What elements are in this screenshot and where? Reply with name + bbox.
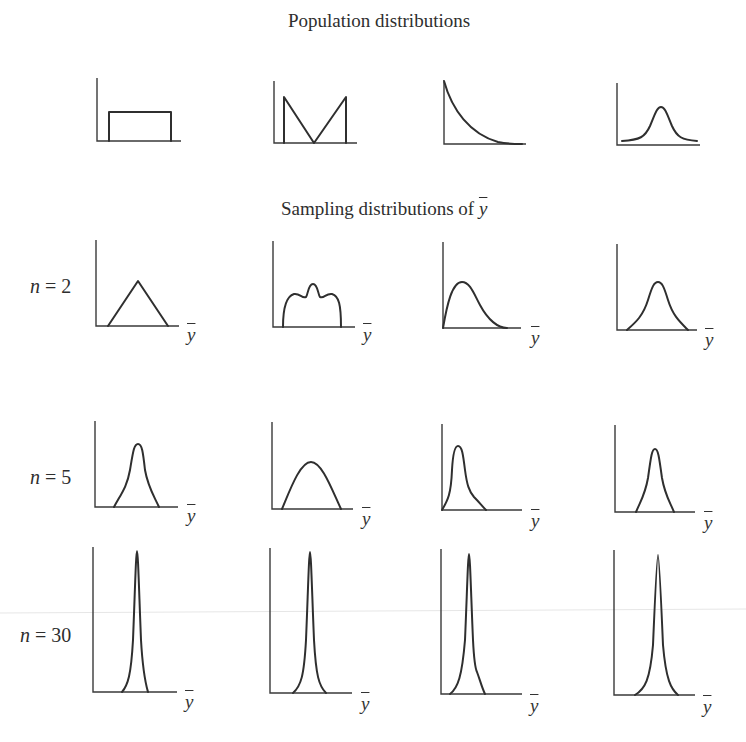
plot-n5-uniform [95,421,178,507]
scan-line [0,609,746,613]
plot-n2-uniform [96,240,179,326]
plot-n30-ushaped [270,548,352,693]
distribution-grid [0,0,746,742]
plot-n30-exponential [441,549,522,694]
plot-population-uniform [97,78,181,141]
plot-n2-exponential [443,242,521,328]
plot-n2-ushaped [273,241,355,327]
plot-n2-normal [617,244,697,330]
plot-n5-ushaped [272,422,353,509]
plot-n30-normal [614,550,695,695]
plot-n5-exponential [442,424,522,510]
plot-population-ushaped [274,81,357,143]
plot-n5-normal [615,425,695,512]
plot-population-normal [617,83,700,145]
plot-n30-uniform [93,547,177,692]
plot-population-exponential [444,81,526,144]
